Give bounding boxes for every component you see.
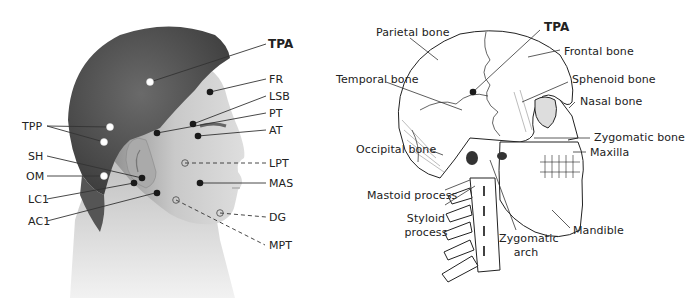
label-maxilla: Maxilla [590,147,629,158]
label-tpp: TPP [22,121,42,132]
label-dg: DG [269,212,286,223]
label-mpt: MPT [269,240,292,251]
label-mas: MAS [269,178,293,189]
label-lc1: LC1 [28,194,49,205]
label-lpt: LPT [269,158,289,169]
label-om: OM [26,171,44,182]
label-at: AT [269,125,283,136]
label-sh: SH [28,151,43,162]
label-pt: PT [269,108,283,119]
label-temporal-bone: Temporal bone [336,74,419,85]
label-mastoid-process: Mastoid process [367,190,457,201]
label-tpa-left: TPA [268,38,293,50]
label-zygomatic-arch: Zygomatic arch [499,232,553,260]
label-lsb: LSB [269,91,290,102]
anatomy-figure: TPA FR LSB PT AT TPP SH OM LPT MAS LC1 A… [0,0,693,298]
label-styloid-line2: process [404,226,448,240]
label-sphenoid-bone: Sphenoid bone [572,74,656,85]
label-zygomatic-arch-line2: arch [499,246,553,260]
label-tpa-right: TPA [544,21,569,33]
label-nasal-bone: Nasal bone [580,96,642,107]
label-styloid-line1: Styloid [404,212,448,226]
label-zygomatic-arch-line1: Zygomatic [499,232,553,246]
label-zygomatic-bone: Zygomatic bone [594,132,685,143]
label-occipital-bone: Occipital bone [356,144,436,155]
label-ac1: AC1 [28,216,50,227]
label-fr: FR [269,74,283,85]
label-parietal-bone: Parietal bone [376,27,450,38]
label-styloid-process: Styloid process [404,212,448,240]
label-mandible: Mandible [573,225,624,236]
label-frontal-bone: Frontal bone [564,46,634,57]
